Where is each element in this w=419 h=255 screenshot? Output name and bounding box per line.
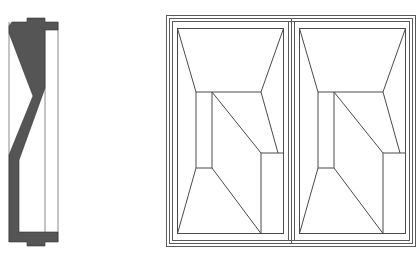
door-elevation bbox=[167, 16, 416, 247]
technical-drawing bbox=[0, 0, 419, 255]
door-leaf-right bbox=[300, 29, 406, 234]
section-fill-shape bbox=[9, 18, 58, 246]
section-profile bbox=[9, 18, 58, 246]
door-leaf-left bbox=[178, 29, 284, 234]
drawing-canvas bbox=[0, 0, 419, 255]
